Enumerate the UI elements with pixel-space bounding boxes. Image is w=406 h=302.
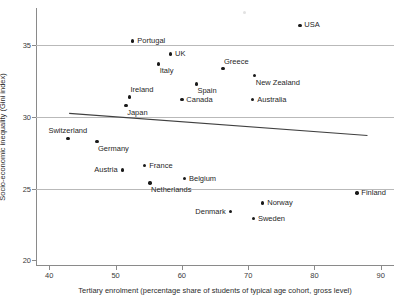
y-tick-label-35: 35 — [23, 41, 31, 50]
x-tick-label-40: 40 — [45, 271, 53, 280]
data-point-marker — [221, 67, 224, 70]
data-point-marker — [95, 140, 98, 143]
data-point-label: Denmark — [195, 208, 225, 216]
scatter-plot-figure: 20253035 405060708090 USAPortugalUKItaly… — [0, 0, 406, 302]
data-point-marker — [148, 181, 151, 184]
data-point-marker — [128, 95, 131, 98]
y-tick-label-20: 20 — [23, 256, 31, 265]
x-tick-mark-70 — [248, 266, 249, 270]
data-point-label: Germany — [98, 145, 129, 153]
y-tick-label-30: 30 — [23, 112, 31, 121]
data-point-marker — [195, 82, 198, 85]
data-point-label: UK — [175, 50, 185, 58]
x-tick-mark-50 — [116, 266, 117, 270]
data-point-marker — [66, 137, 69, 140]
data-point-label: Switzerland — [48, 127, 87, 135]
data-point-label: Norway — [267, 199, 292, 207]
data-point-label: Finland — [361, 189, 386, 197]
data-point-label: Japan — [127, 109, 147, 117]
y-axis-title: Socio-economic inequality (Gini index) — [0, 73, 7, 201]
x-tick-label-60: 60 — [178, 271, 186, 280]
data-point-label: USA — [304, 21, 319, 29]
x-tick-mark-40 — [49, 266, 50, 270]
data-point-label: Netherlands — [151, 186, 191, 194]
data-point-label: France — [149, 162, 172, 170]
data-point-label: Ireland — [130, 86, 153, 94]
data-point-label: Greece — [224, 57, 249, 65]
data-point-marker — [355, 191, 358, 194]
data-point-marker — [124, 104, 127, 107]
x-tick-mark-90 — [381, 266, 382, 270]
x-tick-label-80: 80 — [310, 271, 318, 280]
data-point-label: Australia — [257, 96, 286, 104]
x-tick-label-90: 90 — [377, 271, 385, 280]
x-tick-label-50: 50 — [111, 271, 119, 280]
data-point-label: New Zealand — [256, 79, 300, 87]
plot-area: 20253035 405060708090 USAPortugalUKItaly… — [36, 8, 394, 266]
x-tick-mark-80 — [314, 266, 315, 270]
data-point-label: Belgium — [189, 175, 216, 183]
y-tick-label-25: 25 — [23, 184, 31, 193]
data-point-marker — [298, 24, 301, 27]
data-point-marker — [121, 168, 124, 171]
data-point-label: Italy — [160, 67, 174, 75]
data-point-label: Spain — [197, 87, 216, 95]
x-tick-label-70: 70 — [244, 271, 252, 280]
data-point-marker — [169, 52, 172, 55]
data-point-label: Austria — [94, 166, 117, 174]
data-point-marker — [157, 62, 160, 65]
x-tick-mark-60 — [182, 266, 183, 270]
data-point-label: Canada — [186, 96, 212, 104]
data-point-label: Sweden — [258, 215, 285, 223]
trend-line — [36, 8, 394, 266]
data-point-label: Portugal — [137, 37, 165, 45]
x-axis-title: Tertiary enrolment (percentage share of … — [36, 286, 394, 295]
